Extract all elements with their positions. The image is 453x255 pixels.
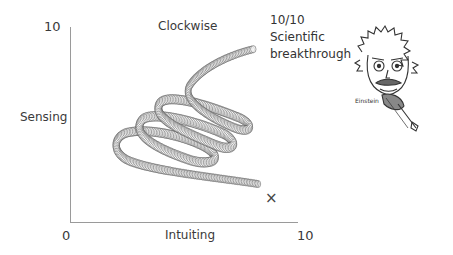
einstein-caption: Einstein [355, 97, 379, 104]
coil-rings [113, 46, 261, 188]
einstein-caricature-icon [355, 26, 418, 131]
spiral-coil: Einstein [0, 0, 453, 255]
